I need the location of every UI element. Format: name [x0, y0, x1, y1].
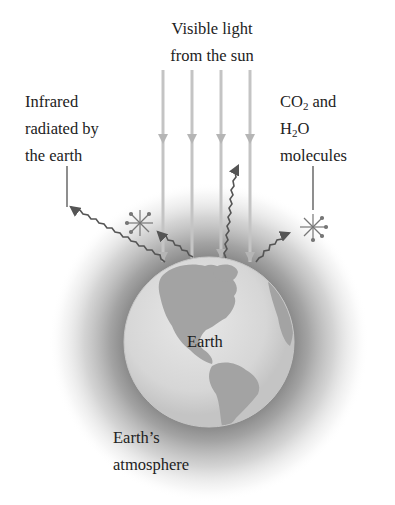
infrared-label-line-1: Infrared	[25, 88, 99, 115]
molecules-label: CO2 and H2O molecules	[280, 88, 347, 169]
co2-symbol: CO	[280, 92, 303, 111]
atmosphere-label: Earth’s atmosphere	[113, 424, 189, 478]
sunlight-label: Visible light from the sun	[157, 15, 267, 69]
co2-and-text: and	[308, 92, 336, 111]
molecules-label-co2: CO2 and	[280, 88, 347, 115]
atmosphere-label-line-1: Earth’s	[113, 424, 189, 451]
atmosphere-label-line-2: atmosphere	[113, 451, 189, 478]
h2o-symbol-h: H	[280, 119, 292, 138]
greenhouse-diagram: Visible light from the sun Infrared radi…	[0, 0, 395, 505]
sunlight-label-line-1: Visible light	[157, 15, 267, 42]
infrared-label-line-2: radiated by	[25, 115, 99, 142]
h2o-symbol-o: O	[297, 119, 309, 138]
diagram-canvas	[0, 0, 395, 505]
infrared-label-line-3: the earth	[25, 142, 99, 169]
molecules-label-h2o: H2O	[280, 115, 347, 142]
earth-label: Earth	[187, 328, 223, 355]
sunlight-label-line-2: from the sun	[157, 42, 267, 69]
molecules-label-line-3: molecules	[280, 142, 347, 169]
infrared-label: Infrared radiated by the earth	[25, 88, 99, 169]
